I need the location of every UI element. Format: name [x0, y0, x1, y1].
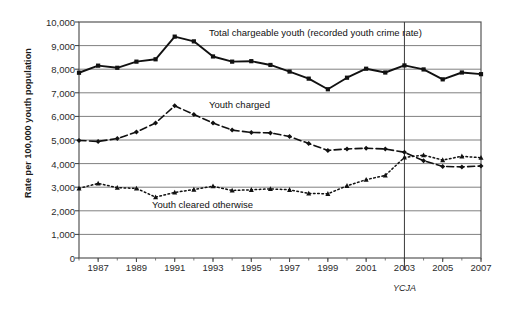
data-point-marker	[345, 146, 350, 151]
data-point-marker	[77, 138, 82, 143]
data-point-marker	[249, 130, 254, 135]
data-point-marker	[268, 130, 273, 135]
data-point-marker	[77, 71, 81, 75]
data-point-marker	[287, 187, 292, 192]
data-point-marker	[364, 67, 368, 71]
data-point-marker	[249, 59, 253, 63]
data-point-marker	[173, 35, 177, 39]
data-point-marker	[307, 77, 311, 81]
data-point-marker	[402, 63, 406, 67]
data-point-marker	[460, 70, 464, 74]
data-point-marker	[211, 54, 215, 58]
data-point-marker	[192, 39, 196, 43]
data-point-marker	[326, 87, 330, 91]
data-point-marker	[96, 64, 100, 68]
data-point-marker	[268, 63, 272, 67]
data-point-marker	[134, 60, 138, 64]
data-point-marker	[153, 57, 157, 61]
data-point-marker	[459, 164, 464, 169]
data-point-marker	[440, 164, 445, 169]
plot-area	[0, 0, 516, 312]
data-point-marker	[211, 121, 216, 126]
series-1	[77, 35, 483, 92]
data-point-marker	[172, 103, 177, 108]
data-point-marker	[345, 183, 350, 188]
data-point-marker	[345, 76, 349, 80]
data-point-marker	[134, 129, 139, 134]
chart-figure: Rate per 100,000 youth population 10,000…	[0, 0, 516, 312]
data-point-marker	[421, 67, 425, 71]
data-point-marker	[441, 77, 445, 81]
series-2	[77, 103, 484, 169]
data-point-marker	[287, 69, 291, 73]
data-point-marker	[153, 121, 158, 126]
data-point-marker	[115, 66, 119, 70]
data-point-marker	[287, 134, 292, 139]
series-line	[79, 106, 481, 167]
data-point-marker	[364, 146, 369, 151]
data-point-marker	[230, 60, 234, 64]
data-point-marker	[230, 128, 235, 133]
data-point-marker	[402, 150, 407, 155]
data-point-marker	[479, 72, 483, 76]
data-point-marker	[364, 177, 369, 182]
data-point-marker	[383, 70, 387, 74]
data-point-marker	[479, 163, 484, 168]
data-point-marker	[421, 158, 426, 163]
series-line	[79, 155, 481, 197]
data-point-marker	[325, 148, 330, 153]
series-line	[79, 37, 481, 90]
data-point-marker	[306, 141, 311, 146]
data-point-marker	[383, 146, 388, 151]
